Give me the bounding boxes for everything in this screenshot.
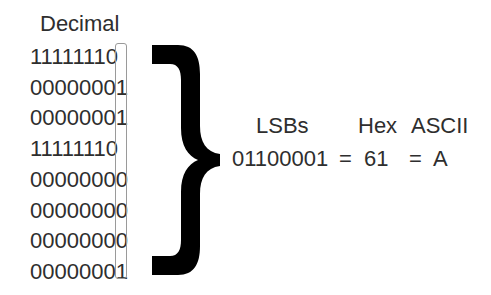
binary-row-7: 00000000: [30, 230, 128, 252]
equals-sign-2: =: [409, 148, 422, 170]
ascii-header: ASCII: [411, 115, 468, 137]
right-curly-brace-icon: [148, 42, 228, 278]
binary-row-1: 11111110: [30, 46, 118, 68]
binary-row-6: 00000000: [30, 200, 128, 222]
decimal-header: Decimal: [40, 13, 119, 35]
hex-value: 61: [364, 148, 388, 170]
binary-row-4: 11111110: [30, 138, 118, 160]
hex-header: Hex: [358, 115, 397, 137]
ascii-value: A: [433, 148, 448, 170]
binary-row-3: 00000001: [30, 107, 128, 129]
lsbs-header: LSBs: [256, 115, 309, 137]
lsb-highlight-box: [115, 43, 127, 279]
equals-sign-1: =: [339, 148, 352, 170]
binary-row-5: 00000000: [30, 169, 128, 191]
lsb-binary-value: 01100001: [232, 148, 328, 170]
binary-row-8: 00000001: [30, 261, 128, 283]
binary-row-2: 00000001: [30, 77, 128, 99]
